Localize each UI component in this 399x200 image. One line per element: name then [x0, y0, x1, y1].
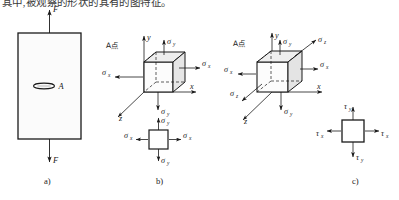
- sigma-y-top-label-b: σ: [167, 37, 172, 46]
- panel-b-group: A点 y x z σ x σ x: [102, 33, 211, 166]
- sigma-x-right-label-c: σ: [320, 60, 325, 69]
- square-sigma-x-right-sub-b: x: [188, 135, 192, 141]
- point-a-label: A: [58, 82, 65, 91]
- panel-a-group: F F A: [18, 5, 81, 165]
- sigma-x-left-label-b: σ: [102, 68, 107, 77]
- sigma-z-front-sub-c: z: [235, 93, 239, 99]
- sigma-x-right-label-b: σ: [202, 59, 207, 68]
- square-sigma-y-top-sub-b: y: [166, 120, 170, 126]
- square-sigma-y-bottom-label-b: σ: [161, 156, 166, 165]
- sigma-y-bottom-sub-b: y: [166, 111, 170, 117]
- cube-front-face-c: [257, 62, 288, 92]
- plane-element-square-c: [342, 120, 364, 142]
- point-a-ellipse-inner: [37, 85, 52, 88]
- sigma-y-top-sub-b: y: [172, 41, 176, 47]
- mechanics-figure-svg: F F A A点 y x z: [0, 0, 399, 200]
- cube-front-face-b: [144, 62, 173, 92]
- point-note-b: A点: [106, 41, 119, 50]
- axis-z-label-b: z: [118, 114, 123, 123]
- square-tau-x-right-label-c: τ: [381, 129, 385, 138]
- sigma-y-top-sub-c: y: [288, 41, 292, 47]
- square-sigma-x-left-label-b: σ: [124, 131, 129, 140]
- sigma-z-back-arrow-c: [295, 40, 316, 56]
- square-tau-x-right-sub-c: x: [385, 133, 389, 139]
- axis-x-label-b: x: [189, 82, 194, 91]
- sigma-y-bottom-label-c: σ: [284, 107, 289, 116]
- axis-y-label-c: y: [274, 31, 279, 40]
- sigma-z-back-sub-c: z: [323, 39, 327, 45]
- sigma-x-right-sub-c: x: [325, 64, 329, 70]
- square-sigma-y-bottom-sub-b: y: [166, 160, 170, 166]
- sigma-y-bottom-sub-c: y: [289, 111, 293, 117]
- plane-element-square-b: [149, 130, 168, 149]
- square-tau-x-left-sub-c: x: [320, 133, 324, 139]
- axis-z-label-c: z: [243, 117, 248, 126]
- axis-x-label-c: x: [316, 82, 321, 91]
- sigma-y-bottom-label-b: σ: [161, 107, 166, 116]
- sigma-x-left-sub-b: x: [107, 72, 111, 78]
- sigma-x-left-sub-c: x: [229, 69, 233, 75]
- square-tau-x-left-label-c: τ: [316, 129, 320, 138]
- panel-c-group: A点 y x z σ x σ x σ y: [224, 31, 389, 163]
- sigma-z-back-label-c: σ: [318, 35, 323, 44]
- point-note-c: A点: [233, 39, 246, 48]
- figure-root: 其中,被观察的形状的其有的图特征。 F F A A点: [0, 0, 399, 200]
- sigma-x-right-sub-b: x: [207, 63, 211, 69]
- sigma-x-left-label-c: σ: [224, 65, 229, 74]
- square-tau-y-top-sub-c: y: [348, 106, 352, 112]
- square-sigma-x-right-label-b: σ: [183, 131, 188, 140]
- panel-caption-b: b): [156, 176, 163, 186]
- axis-y-label-b: y: [146, 33, 151, 42]
- panel-caption-c: c): [352, 176, 359, 186]
- square-tau-y-bottom-label-c: τ: [356, 153, 360, 162]
- sigma-y-top-label-c: σ: [283, 37, 288, 46]
- square-tau-y-bottom-sub-c: y: [360, 157, 364, 163]
- square-sigma-y-top-label-b: σ: [161, 116, 166, 125]
- square-tau-y-top-label-c: τ: [344, 102, 348, 111]
- panel-caption-a: a): [44, 176, 51, 186]
- force-label-bottom: F: [52, 156, 59, 165]
- sigma-z-front-label-c: σ: [230, 89, 235, 98]
- force-label-top: F: [52, 5, 59, 14]
- square-sigma-x-left-sub-b: x: [129, 135, 133, 141]
